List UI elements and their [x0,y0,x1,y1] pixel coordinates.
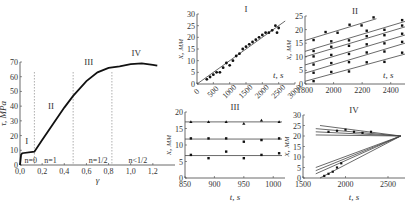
data-point [323,175,325,177]
x-tick-label: 2500 [380,180,396,189]
data-point [348,61,350,63]
data-point [360,24,362,26]
data-point [267,31,270,34]
y-axis-label: τ, MPa [0,100,8,126]
fit-line [316,136,401,174]
data-point [336,166,338,168]
y-tick-label: 15 [187,45,195,54]
data-point [242,122,245,125]
data-point [348,39,350,41]
data-point [218,71,221,74]
data-point [232,59,235,62]
data-point [207,157,209,159]
data-point [260,139,262,141]
data-point [361,132,363,134]
fit-line [320,126,401,137]
y-tick-label: 10 [295,53,303,62]
data-point [336,32,338,34]
chart-main: 0102030405060700,00,20,40,60,81,01,2τ, M… [0,48,175,185]
data-point [243,157,245,159]
data-point [261,34,264,37]
y-tick-label: 25 [187,22,195,31]
data-point [383,61,385,63]
data-point [241,48,244,51]
data-point [324,31,326,33]
data-point [225,137,227,139]
y-tick-label: 20 [175,108,183,117]
y-tick-label: 15 [295,39,303,48]
y-tick-label: 10 [175,141,183,150]
data-point [348,24,350,26]
y-tick-label: 60 [10,73,18,82]
data-point [330,62,332,64]
y-tick-label: 25 [295,12,303,21]
x-tick-label: 0 [192,87,201,96]
panel-title: II [352,6,358,16]
x-tick-label: 1800 [297,86,313,95]
data-point [207,137,209,139]
data-point [205,78,208,81]
x-tick-label: 900 [208,180,220,189]
stress-strain-curve [20,63,157,165]
y-tick-label: 70 [10,58,18,67]
data-point [277,27,280,30]
data-point [260,119,263,122]
data-point [401,33,403,35]
data-point [370,131,372,133]
data-point [248,43,251,46]
x-tick-label: 2400 [383,86,399,95]
exponent-annotation: n<1/2 [129,156,148,165]
x-tick-label: 1000 [265,180,281,189]
figure: 0102030405060700,00,20,40,60,81,01,2τ, M… [0,0,415,212]
data-point [238,52,241,55]
x-tick-label: 500 [206,84,221,99]
y-tick-label: 30 [293,111,301,120]
data-point [274,24,277,27]
x-tick-label: 0,8 [104,167,114,176]
y-tick-label: 20 [293,132,301,141]
fit-line [305,35,405,65]
data-point [190,137,192,139]
y-axis-label: x, мм [163,135,173,156]
data-point [245,45,248,48]
y-tick-label: 5 [299,66,303,75]
data-point [251,41,254,44]
data-point [383,34,385,36]
data-point [278,152,280,154]
data-point [327,131,329,133]
x-tick-label: 1500 [295,180,311,189]
y-tick-label: 40 [10,102,18,111]
x-tick-label: 950 [238,180,250,189]
data-point [348,45,350,47]
data-point [312,72,314,74]
data-point [312,55,314,57]
data-point [312,80,314,82]
y-tick-label: 25 [293,122,301,131]
x-tick-label: 2000 [326,86,342,95]
x-tick-label: 1,0 [126,167,136,176]
x-axis-label: t, s [349,192,360,202]
data-point [401,19,403,21]
data-point [190,154,192,156]
chart-III: 051015208509009501000IIIx, ммt, s [163,102,285,202]
y-tick-label: 20 [295,26,303,35]
data-point [330,46,332,48]
stage-label: IV [132,48,142,58]
y-tick-label: 5 [297,164,301,173]
x-tick-label: 0,4 [59,167,69,176]
y-tick-label: 20 [187,33,195,42]
data-point [225,150,227,152]
exponent-annotation: n=1 [44,156,57,165]
x-tick-label: 2000 [338,180,354,189]
data-point [235,55,238,58]
x-tick-label: 1000 [220,83,238,101]
stage-label: II [48,101,54,111]
data-point [312,50,314,52]
data-point [330,40,332,42]
x-tick-label: 0,2 [37,167,47,176]
data-point [254,38,257,41]
data-point [366,61,368,63]
x-axis-label: t, s [230,192,241,202]
data-point [383,29,385,31]
data-point [336,130,338,132]
